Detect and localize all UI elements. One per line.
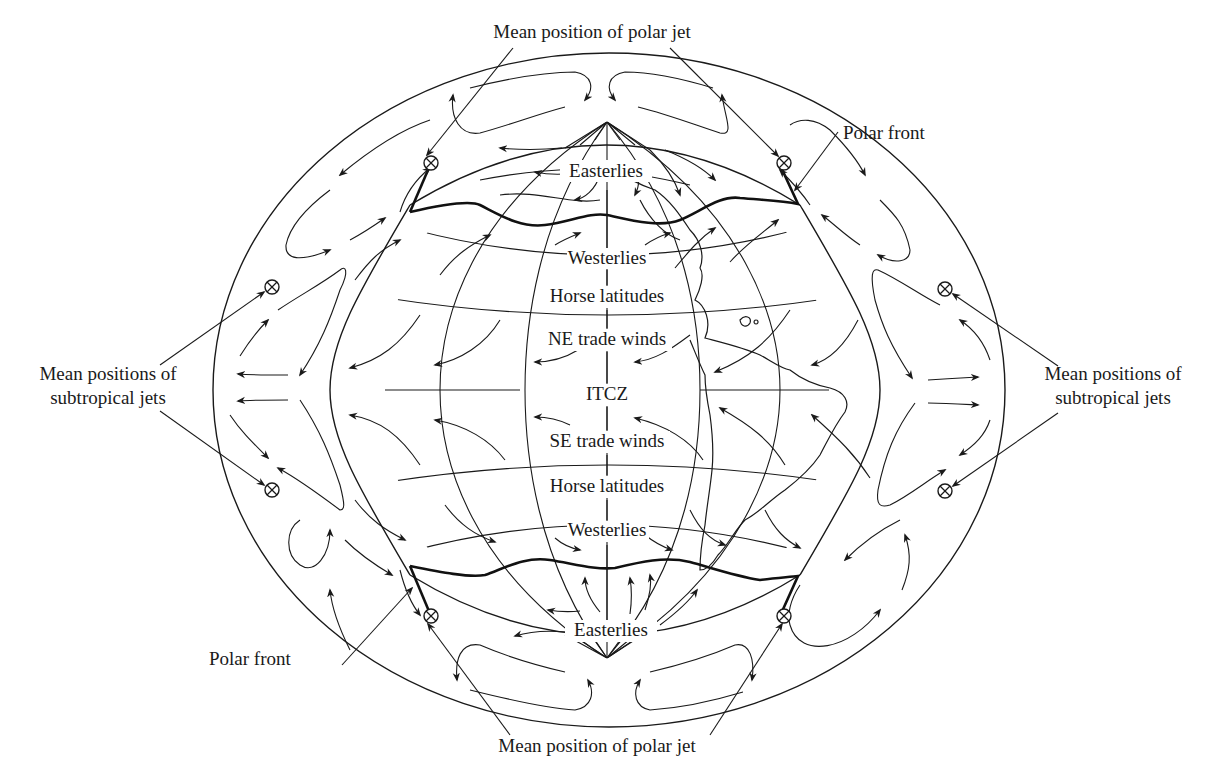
polar-jet-sw-icon <box>424 609 438 623</box>
circulation-diagram: Easterlies Westerlies Horse latitudes NE… <box>0 0 1211 780</box>
label-polar-front-left: Polar front <box>209 648 292 669</box>
zone-label-horse-latitudes-south: Horse latitudes <box>550 475 665 496</box>
subtropical-jet-ne-icon <box>938 282 952 296</box>
zone-label-horse-latitudes-north: Horse latitudes <box>550 285 665 306</box>
zone-label-westerlies-north: Westerlies <box>568 247 647 268</box>
polar-front-south <box>410 559 798 616</box>
zone-label-itcz: ITCZ <box>586 383 628 404</box>
label-subtropical-left-line2: subtropical jets <box>50 387 166 408</box>
polar-jet-se-icon <box>777 609 791 623</box>
label-polar-jet-top: Mean position of polar jet <box>493 21 691 42</box>
label-subtropical-right-line2: subtropical jets <box>1055 387 1171 408</box>
zone-label-ne-trade-winds: NE trade winds <box>548 328 666 349</box>
zone-label-westerlies-south: Westerlies <box>568 519 647 540</box>
zone-label-easterlies-south: Easterlies <box>574 619 648 640</box>
polar-jet-nw-icon <box>424 156 438 170</box>
polar-jet-ne-icon <box>777 156 791 170</box>
label-polar-jet-bottom: Mean position of polar jet <box>498 735 696 756</box>
zone-label-se-trade-winds: SE trade winds <box>549 430 664 451</box>
label-subtropical-right-line1: Mean positions of <box>1044 363 1182 384</box>
zone-label-easterlies-north: Easterlies <box>569 160 643 181</box>
westerlies-arrows <box>355 220 800 550</box>
subtropical-jet-sw-icon <box>265 483 279 497</box>
subtropical-jet-nw-icon <box>265 280 279 294</box>
label-subtropical-left-line1: Mean positions of <box>39 363 177 384</box>
subtropical-jet-se-icon <box>938 484 952 498</box>
label-polar-front-right: Polar front <box>843 122 926 143</box>
americas-coastline <box>607 165 847 570</box>
